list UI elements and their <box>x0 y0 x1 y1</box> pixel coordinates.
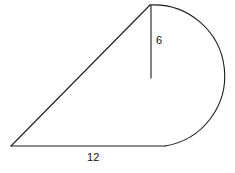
semicircle-arc <box>150 5 225 146</box>
figure-canvas: 6 12 <box>0 0 235 173</box>
base-dimension-label: 12 <box>87 152 100 163</box>
geometry-figure <box>0 0 235 173</box>
hypotenuse-line <box>11 5 150 146</box>
height-dimension-label: 6 <box>156 35 162 46</box>
